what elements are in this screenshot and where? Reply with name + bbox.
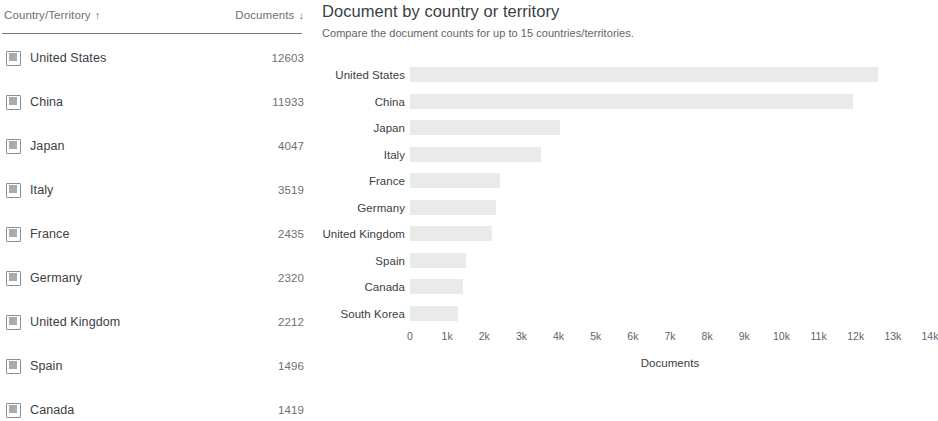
bar-track	[410, 67, 930, 82]
x-axis-tick-label: 11k	[810, 330, 826, 342]
sort-ascending-arrow-icon[interactable]: ↑	[95, 10, 101, 21]
table-row-document-count: 11933	[272, 96, 304, 108]
table-row-country-label: Canada	[30, 403, 74, 417]
bar-track	[410, 120, 930, 135]
bar-chart-plot-area: United StatesChinaJapanItalyFranceGerman…	[322, 62, 932, 332]
x-axis-tick-label: 3k	[516, 330, 527, 342]
bar-track	[410, 147, 930, 162]
bar-track	[410, 200, 930, 215]
table-row-document-count: 1419	[278, 404, 304, 416]
bar-track	[410, 306, 930, 321]
bar-track	[410, 94, 930, 109]
column-header-documents-label: Documents	[235, 9, 294, 21]
table-row[interactable]: China11933	[0, 80, 312, 124]
bar-chart-row: France	[322, 168, 932, 194]
bar[interactable]	[410, 200, 496, 215]
x-axis-tick-label: 2k	[479, 330, 490, 342]
table-row-country-label: United Kingdom	[30, 315, 120, 329]
list-column-headers: Country/Territory ↑ Documents ↓	[0, 0, 312, 30]
table-row-country-label: Japan	[30, 139, 65, 153]
table-row-country-label: China	[30, 95, 63, 109]
bar[interactable]	[410, 279, 463, 294]
bar-category-label: Spain	[322, 255, 405, 267]
flag-placeholder-icon	[6, 227, 21, 242]
chart-panel: Document by country or territory Compare…	[322, 0, 932, 421]
x-axis-tick-label: 1k	[442, 330, 453, 342]
bar-track	[410, 226, 930, 241]
bar[interactable]	[410, 94, 853, 109]
bar-category-label: Italy	[322, 149, 405, 161]
bar-chart-row: Japan	[322, 115, 932, 141]
table-row[interactable]: Italy3519	[0, 168, 312, 212]
table-row-document-count: 4047	[278, 140, 304, 152]
flag-placeholder-icon	[6, 271, 21, 286]
x-axis-title: Documents	[410, 357, 930, 369]
bar-track	[410, 279, 930, 294]
bar-track	[410, 253, 930, 268]
x-axis-tick-label: 14k	[922, 330, 938, 342]
table-row[interactable]: Spain1496	[0, 344, 312, 388]
bar[interactable]	[410, 147, 541, 162]
column-header-country[interactable]: Country/Territory ↑	[4, 9, 100, 21]
bar-chart-row: United Kingdom	[322, 221, 932, 247]
bar-category-label: China	[322, 96, 405, 108]
table-row[interactable]: United States12603	[0, 36, 312, 80]
bar[interactable]	[410, 253, 466, 268]
bar-chart-row: Italy	[322, 142, 932, 168]
flag-placeholder-icon	[6, 51, 21, 66]
x-axis-tick-label: 6k	[627, 330, 638, 342]
x-axis-tick-label: 7k	[664, 330, 675, 342]
flag-placeholder-icon	[6, 95, 21, 110]
x-axis-tick-label: 10k	[773, 330, 790, 342]
chart-subtitle: Compare the document counts for up to 15…	[322, 27, 634, 39]
bar-category-label: France	[322, 175, 405, 187]
bar-chart-row: South Korea	[322, 301, 932, 327]
bar-chart-row: United States	[322, 62, 932, 88]
table-row-document-count: 1496	[278, 360, 304, 372]
x-axis-tick-label: 4k	[553, 330, 564, 342]
column-header-documents[interactable]: Documents ↓	[235, 9, 304, 21]
x-axis-tick-label: 5k	[590, 330, 601, 342]
table-row[interactable]: France2435	[0, 212, 312, 256]
chart-title: Document by country or territory	[322, 2, 559, 21]
bar[interactable]	[410, 67, 878, 82]
bar-chart-row: China	[322, 89, 932, 115]
flag-placeholder-icon	[6, 315, 21, 330]
table-row-country-label: Germany	[30, 271, 82, 285]
country-list: United States12603China11933Japan4047Ita…	[0, 36, 312, 421]
bar[interactable]	[410, 173, 500, 188]
table-row[interactable]: United Kingdom2212	[0, 300, 312, 344]
bar[interactable]	[410, 120, 560, 135]
x-axis-tick-label: 13k	[884, 330, 901, 342]
table-row-document-count: 12603	[272, 52, 304, 64]
table-row-document-count: 3519	[278, 184, 304, 196]
bar-category-label: United States	[322, 69, 405, 81]
x-axis-tick-label: 8k	[702, 330, 713, 342]
bar-category-label: South Korea	[322, 308, 405, 320]
flag-placeholder-icon	[6, 359, 21, 374]
bar-category-label: Canada	[322, 281, 405, 293]
bar[interactable]	[410, 226, 492, 241]
flag-placeholder-icon	[6, 139, 21, 154]
bar-category-label: Japan	[322, 122, 405, 134]
table-row-document-count: 2435	[278, 228, 304, 240]
bar-chart-row: Germany	[322, 195, 932, 221]
table-row-document-count: 2212	[278, 316, 304, 328]
flag-placeholder-icon	[6, 403, 21, 418]
table-row[interactable]: Japan4047	[0, 124, 312, 168]
bar-track	[410, 173, 930, 188]
bar[interactable]	[410, 306, 458, 321]
table-row-country-label: United States	[30, 51, 106, 65]
bar-chart-row: Spain	[322, 248, 932, 274]
sort-descending-arrow-icon[interactable]: ↓	[298, 10, 304, 21]
table-row[interactable]: Canada1419	[0, 388, 312, 421]
x-axis-ticks: 01k2k3k4k5k6k7k8k9k10k11k12k13k14k	[410, 330, 930, 350]
table-row-document-count: 2320	[278, 272, 304, 284]
table-row[interactable]: Germany2320	[0, 256, 312, 300]
country-list-panel: Country/Territory ↑ Documents ↓ United S…	[0, 0, 312, 421]
x-axis-tick-label: 9k	[739, 330, 750, 342]
x-axis-tick-label: 12k	[847, 330, 864, 342]
bar-chart-row: Canada	[322, 274, 932, 300]
flag-placeholder-icon	[6, 183, 21, 198]
